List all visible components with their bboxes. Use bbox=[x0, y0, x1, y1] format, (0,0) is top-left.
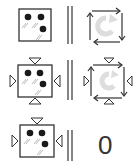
dice-square-with-triangles-icon bbox=[10, 58, 60, 104]
parallel-icon bbox=[66, 130, 74, 161]
row-2 bbox=[0, 50, 138, 106]
rotation-cycle-with-triangles-icon bbox=[84, 58, 132, 104]
row-3: 0 bbox=[0, 110, 138, 161]
rotation-cycle-icon bbox=[88, 8, 126, 44]
parallel-icon bbox=[66, 6, 74, 44]
parallel-icon bbox=[66, 60, 74, 100]
dice-square-icon bbox=[18, 8, 52, 42]
zero-label: 0 bbox=[98, 132, 112, 158]
dice-square-with-triangles-icon bbox=[12, 118, 62, 161]
row-1 bbox=[0, 0, 138, 50]
